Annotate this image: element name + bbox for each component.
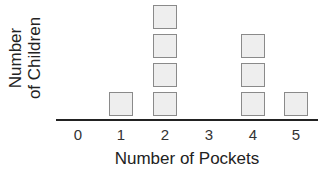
y-axis-label-line-1: Number	[6, 0, 25, 118]
y-axis-label-line-2: of Children	[25, 0, 44, 118]
data-square	[153, 34, 177, 58]
data-square	[109, 92, 133, 116]
data-square	[241, 63, 265, 87]
x-axis-line	[56, 119, 318, 121]
data-square	[284, 92, 308, 116]
x-tick-0: 0	[68, 126, 88, 143]
x-tick-3: 3	[199, 126, 219, 143]
x-axis-label: Number of Pockets	[97, 149, 277, 169]
data-square	[241, 92, 265, 116]
x-tick-2: 2	[155, 126, 175, 143]
data-square	[241, 34, 265, 58]
x-tick-5: 5	[286, 126, 306, 143]
x-tick-1: 1	[111, 126, 131, 143]
x-tick-4: 4	[243, 126, 263, 143]
y-axis-label: Number of Children	[6, 0, 44, 118]
data-square	[153, 92, 177, 116]
data-square	[153, 63, 177, 87]
data-square	[153, 5, 177, 29]
